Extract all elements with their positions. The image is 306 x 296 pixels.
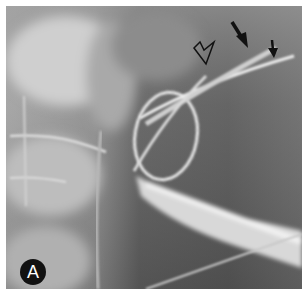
radiograph-image: A	[6, 6, 302, 289]
panel-label: A	[20, 259, 46, 285]
radiograph-svg	[6, 6, 302, 289]
